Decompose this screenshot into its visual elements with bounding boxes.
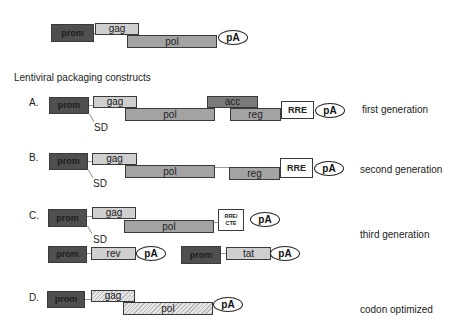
prom-box: prom [49,97,89,114]
connector-line [215,167,229,168]
pol-box: pol [124,220,214,233]
generation-label: first generation [362,104,428,115]
prom-box: prom [181,246,221,264]
tat-box: tat [226,247,271,260]
gag-box: gag [95,23,139,35]
rre-cte-box: RRE/ CTE [218,209,244,231]
construct-letter: A. [29,97,38,108]
prom-box: prom [48,209,87,227]
prom-box: prom [48,246,87,263]
pa-ellipse: pA [315,103,345,118]
rev-box: rev [91,247,136,260]
sd-label: SD [93,178,107,189]
rre-box: RRE [281,101,314,119]
generation-label: second generation [360,164,442,175]
prom-box: prom [47,291,85,308]
reg-box: reg [230,108,281,121]
pa-ellipse: pA [314,161,344,176]
rre-box: RRE [280,158,313,178]
pa-ellipse: pA [218,30,248,45]
sd-line [87,226,92,234]
pa-ellipse: pA [250,212,280,227]
rre-cte-label-1: RRE/ [224,214,237,220]
gag-box: gag [92,153,137,165]
gag-box: gag [92,207,136,219]
sd-line [88,170,93,178]
pa-ellipse: pA [270,246,300,261]
construct-letter: D. [29,292,39,303]
pol-box-codon-optimized: pol [123,302,213,315]
rre-cte-label-2: CTE [226,221,237,227]
gag-box: gag [93,96,137,108]
reg-box: reg [229,167,280,180]
lentiviral-constructs-diagram: prom gag pol pA Lentiviral packaging con… [0,0,465,330]
section-title: Lentiviral packaging constructs [14,72,151,83]
generation-label: third generation [360,229,430,240]
prom-box: prom [51,24,94,42]
acc-box: acc [207,96,258,108]
pol-box: pol [125,165,215,178]
construct-letter: C. [29,210,39,221]
generation-label: codon optimized [360,304,433,315]
sd-label: SD [93,234,107,245]
pa-ellipse: pA [136,246,166,261]
pa-ellipse: pA [213,297,243,312]
sd-label: SD [94,122,108,133]
pol-box: pol [125,108,215,121]
prom-box: prom [49,153,88,170]
construct-letter: B. [29,152,38,163]
pol-box: pol [127,35,217,48]
sd-line [89,114,94,122]
gag-box-codon-optimized: gag [91,290,135,302]
